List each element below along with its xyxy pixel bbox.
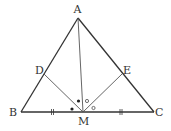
angle-circle-1 <box>85 99 88 102</box>
triangle-diagram: A B C D E M <box>0 0 171 131</box>
angle-dot-2 <box>77 99 80 102</box>
segment-em <box>83 74 122 112</box>
label-a: A <box>73 3 83 16</box>
label-d: D <box>35 64 44 77</box>
label-c: C <box>155 106 163 119</box>
label-b: B <box>9 106 17 119</box>
angle-circle-2 <box>92 106 95 109</box>
segment-am <box>78 18 83 112</box>
inner-segments <box>44 18 122 112</box>
segment-dm <box>44 74 83 112</box>
angle-dot-1 <box>70 107 73 110</box>
label-e: E <box>123 64 131 77</box>
label-m: M <box>78 115 89 128</box>
